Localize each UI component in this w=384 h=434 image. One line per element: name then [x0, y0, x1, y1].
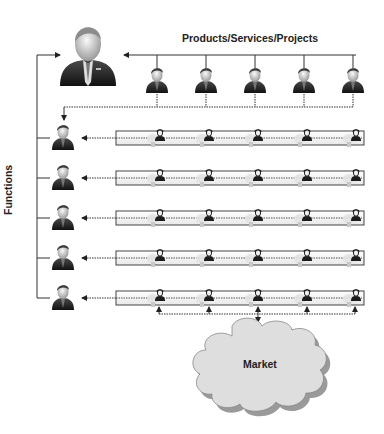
- function-row: [82, 210, 364, 227]
- product-manager-icon: [146, 68, 168, 93]
- product-line-connector: [124, 55, 356, 68]
- executive-icon: [60, 27, 116, 86]
- function-row: [82, 130, 364, 147]
- product-manager-icon: [244, 68, 266, 93]
- product-manager-dashed-connector: [64, 94, 353, 120]
- functional-manager-icon: [52, 165, 74, 190]
- matrix-diagram: [0, 0, 384, 434]
- product-manager-icon: [195, 68, 217, 93]
- functional-manager-icon: [52, 125, 74, 150]
- function-row: [82, 290, 364, 307]
- function-row: [82, 170, 364, 187]
- functional-manager-icon: [52, 285, 74, 310]
- functional-manager-icon: [52, 245, 74, 270]
- function-row: [82, 250, 364, 267]
- market-label: Market: [243, 358, 277, 370]
- product-manager-icon: [342, 68, 364, 93]
- functional-manager-icon: [52, 205, 74, 230]
- product-manager-icon: [293, 68, 315, 93]
- market-connector: [159, 307, 355, 322]
